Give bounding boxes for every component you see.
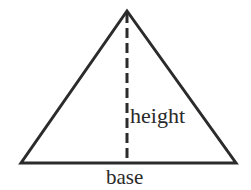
triangle-diagram-figure: height base bbox=[0, 0, 251, 190]
base-label: base bbox=[106, 167, 143, 188]
triangle-diagram-canvas bbox=[0, 0, 251, 190]
height-label: height bbox=[130, 105, 185, 127]
